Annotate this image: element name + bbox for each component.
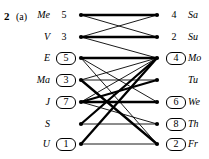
right-node-dot	[155, 56, 159, 60]
right-node-value: 6	[166, 96, 186, 109]
left-node-name: J	[22, 97, 50, 107]
right-node-value: 2	[168, 32, 180, 42]
right-node-dot	[155, 13, 159, 17]
left-node-value: 1	[56, 138, 76, 151]
left-node-value: 5	[58, 10, 70, 20]
left-node-name: U	[22, 139, 50, 149]
right-node-dot	[155, 78, 159, 82]
left-node-name: V	[22, 32, 50, 42]
right-node-value: 8	[166, 118, 186, 131]
right-node-dot	[155, 100, 159, 104]
right-node-name: Mo	[188, 53, 209, 63]
left-node-dot	[79, 13, 83, 17]
graph-edge	[81, 37, 157, 58]
right-node-dot	[155, 122, 159, 126]
left-node-dot	[79, 56, 83, 60]
figure-container: 2 (a) Me5V3E5Ma3J7SU1 4Sa2Su4MoTu6We8Th2…	[0, 0, 209, 159]
left-node-dot	[79, 122, 83, 126]
left-node-value: 5	[56, 52, 76, 65]
left-node-dot	[79, 142, 83, 146]
left-node-name: Ma	[22, 75, 50, 85]
left-node-dot	[79, 35, 83, 39]
left-node-value: 3	[56, 74, 76, 87]
left-node-value: 3	[58, 32, 70, 42]
right-node-name: Fr	[188, 139, 209, 149]
right-node-dot	[155, 142, 159, 146]
right-node-name: Tu	[188, 75, 209, 85]
right-node-name: Sa	[188, 10, 209, 20]
right-node-name: Th	[188, 119, 209, 129]
right-node-value: 4	[166, 52, 186, 65]
left-node-dot	[79, 78, 83, 82]
right-node-name: We	[188, 97, 209, 107]
left-node-name: S	[22, 119, 50, 129]
right-node-value: 2	[166, 138, 186, 151]
left-node-name: Me	[22, 10, 50, 20]
left-node-dot	[79, 100, 83, 104]
right-node-name: Su	[188, 32, 209, 42]
right-node-value: 4	[168, 10, 180, 20]
left-node-name: E	[22, 53, 50, 63]
right-node-dot	[155, 35, 159, 39]
left-node-value: 7	[56, 96, 76, 109]
